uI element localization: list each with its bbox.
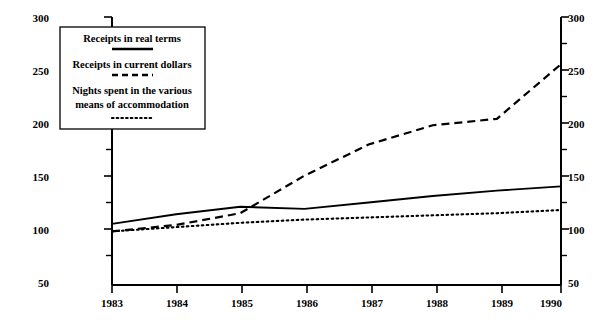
- x-tick-label: 1986: [296, 297, 319, 309]
- x-axis-tick-labels: 1983 1984 1985 1986 1987 1988 1989 1990: [101, 297, 563, 309]
- legend-label-receipts-current: Receipts in current dollars: [72, 59, 191, 70]
- x-tick-label: 1985: [231, 297, 254, 309]
- legend: Receipts in real terms Receipts in curre…: [60, 27, 205, 129]
- x-axis-ticks: [112, 285, 561, 293]
- y-tick-label: 250: [33, 65, 50, 77]
- y-axis-left-tick-labels: 300 250 200 150 100 50: [33, 12, 50, 289]
- y-axis-right-tick-labels: 300 250 200 150 100 50: [568, 12, 585, 289]
- chart-container: 300 250 200 150 100 50 300 250 200 150 1…: [0, 0, 615, 327]
- x-tick-label: 1987: [361, 297, 384, 309]
- y-tick-label-right: 50: [568, 277, 580, 289]
- y-tick-label: 100: [33, 224, 50, 236]
- x-tick-label: 1988: [426, 297, 449, 309]
- legend-label-nights-spent-line2: means of accommodation: [75, 99, 189, 110]
- x-tick-label: 1990: [540, 297, 563, 309]
- x-tick-label: 1989: [491, 297, 514, 309]
- y-tick-label-right: 250: [568, 65, 585, 77]
- y-tick-label: 200: [33, 118, 50, 130]
- y-tick-label-right: 300: [568, 12, 585, 24]
- y-tick-label: 50: [38, 277, 50, 289]
- y-axis-right-ticks: [561, 17, 569, 256]
- y-tick-label: 150: [33, 171, 50, 183]
- x-tick-label: 1984: [166, 297, 189, 309]
- line-chart: 300 250 200 150 100 50 300 250 200 150 1…: [0, 0, 615, 327]
- y-tick-label-right: 100: [568, 224, 585, 236]
- y-tick-label-right: 200: [568, 118, 585, 130]
- x-tick-label: 1983: [101, 297, 124, 309]
- y-tick-label: 300: [33, 12, 50, 24]
- y-tick-label-right: 150: [568, 171, 585, 183]
- legend-label-nights-spent: Nights spent in the various: [72, 85, 192, 96]
- legend-label-receipts-real: Receipts in real terms: [83, 33, 180, 44]
